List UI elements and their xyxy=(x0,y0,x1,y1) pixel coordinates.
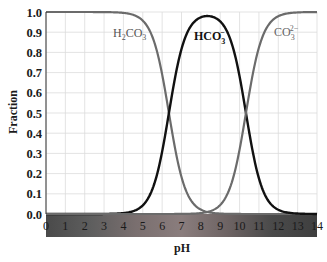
y-tick-label: 0.0 xyxy=(26,208,42,222)
x-tick-label: 1 xyxy=(62,219,68,233)
x-tick-label: 0 xyxy=(43,219,49,233)
y-tick-label: 0.3 xyxy=(26,147,42,161)
x-tick-label: 6 xyxy=(159,219,165,233)
x-tick-label: 10 xyxy=(234,219,246,233)
x-tick-label: 14 xyxy=(311,219,323,233)
y-tick-label: 0.4 xyxy=(26,127,42,141)
x-tick-label: 11 xyxy=(253,219,265,233)
x-tick-label: 12 xyxy=(272,219,284,233)
y-tick-label: 0.2 xyxy=(26,167,42,181)
x-tick-label: 13 xyxy=(292,219,304,233)
x-tick-label: 4 xyxy=(120,219,126,233)
h2co3-label: H2CO3 xyxy=(113,26,146,42)
grid-lines xyxy=(46,12,317,214)
y-tick-label: 0.1 xyxy=(26,187,42,201)
y-tick-label: 0.9 xyxy=(26,26,42,40)
x-tick-label: 9 xyxy=(217,219,223,233)
x-tick-label: 5 xyxy=(140,219,146,233)
species-fraction-chart: 0.00.10.20.30.40.50.60.70.80.91.0 012345… xyxy=(0,0,327,262)
y-tick-labels: 0.00.10.20.30.40.50.60.70.80.91.0 xyxy=(26,6,42,222)
x-axis-label: pH xyxy=(174,241,191,255)
y-tick-label: 0.6 xyxy=(26,86,42,100)
y-tick-label: 0.7 xyxy=(26,66,42,80)
y-tick-label: 0.5 xyxy=(26,107,42,121)
co3-label: CO32− xyxy=(274,24,299,42)
y-axis-label: Fraction xyxy=(6,90,20,134)
x-tick-label: 8 xyxy=(198,219,204,233)
hco3-label: HCO3− xyxy=(194,28,225,46)
x-tick-label: 3 xyxy=(101,219,107,233)
y-tick-label: 1.0 xyxy=(26,6,42,20)
x-tick-label: 7 xyxy=(179,219,185,233)
y-tick-label: 0.8 xyxy=(26,46,42,60)
x-tick-label: 2 xyxy=(82,219,88,233)
x-tick-labels: 01234567891011121314 xyxy=(43,219,323,233)
